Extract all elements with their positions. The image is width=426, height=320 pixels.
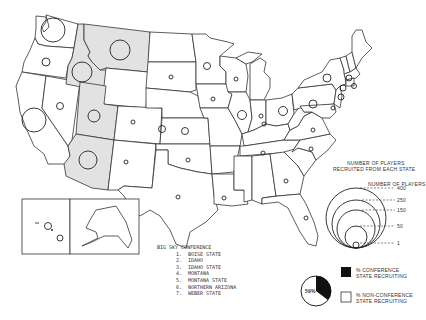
size-legend-value-400: 400 [397, 185, 406, 191]
state-maine [352, 30, 372, 68]
nonconference-label-2: STATE RECRUITING [356, 298, 407, 304]
size-legend-value-250: 250 [397, 197, 406, 203]
conference-member: 1.BOISE STATE [170, 251, 236, 258]
conference-label-2: STATE RECRUITING [356, 273, 407, 279]
size-legend-value-150: 150 [397, 207, 406, 213]
conference-member: 2.IDAHO [170, 257, 236, 264]
hawaii-inset [22, 199, 70, 254]
conference-swatch [341, 267, 351, 277]
conference-list: BIG SKY CONFERENCE 1.BOISE STATE 2.IDAHO… [170, 244, 236, 297]
state-colorado [114, 106, 162, 144]
nonconference-swatch [341, 292, 351, 302]
size-legend-value-50: 50 [397, 223, 403, 229]
conference-member: 7.WEBER STATE [170, 290, 236, 297]
size-legend-circles [326, 188, 395, 248]
state-new-york [298, 58, 346, 90]
conference-member: 4.MONTANA [170, 270, 236, 277]
size-legend-title-line2: RECRUITED FROM EACH STATE [333, 166, 415, 172]
state-florida [262, 194, 318, 246]
conference-member: 6.NORTHERN ARIZONA [170, 284, 236, 291]
conference-title: BIG SKY CONFERENCE [157, 244, 236, 251]
conference-member: 5.MONTANA STATE [170, 277, 236, 284]
pie-percent-label: 59% [305, 288, 316, 294]
state-south-dakota [146, 62, 196, 92]
state-kansas [160, 118, 210, 144]
state-arizona [64, 134, 114, 190]
state-north-dakota [148, 32, 196, 62]
conference-member: 3.IDAHO STATE [170, 264, 236, 271]
state-wyoming [102, 68, 148, 108]
pie-legend-chart [301, 267, 351, 306]
size-legend-value-1: 1 [397, 240, 400, 246]
state-new-mexico [108, 140, 156, 190]
